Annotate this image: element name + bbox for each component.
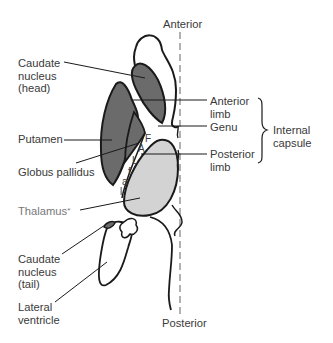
- label-internal-capsule: Internal capsule: [273, 124, 312, 149]
- label-thalamus: Thalamus*: [18, 205, 70, 218]
- fibre-letter-F: F: [145, 133, 151, 144]
- label-posterior: Posterior: [162, 317, 207, 330]
- label-genu: Genu: [210, 121, 237, 134]
- label-putamen: Putamen: [18, 133, 63, 146]
- label-posterior-limb: Posterior limb: [210, 148, 255, 173]
- thalamus-text: Thalamus: [18, 205, 67, 217]
- label-anterior: Anterior: [163, 18, 202, 31]
- fibre-letter-A: A: [138, 143, 145, 154]
- label-caudate-head: Caudate nucleus (head): [18, 57, 60, 95]
- fibre-letter-f: f: [128, 166, 131, 177]
- label-anterior-limb: Anterior limb: [210, 95, 249, 120]
- posterior-outline: [150, 217, 172, 310]
- label-lateral-ventricle: Lateral ventricle: [18, 301, 60, 326]
- label-globus-pallidus: Globus pallidus: [18, 166, 95, 179]
- thalamus-asterisk: *: [67, 206, 70, 215]
- label-caudate-tail: Caudate nucleus (tail): [18, 253, 60, 291]
- fibre-letter-L: L: [132, 155, 138, 166]
- fibre-letter-a: a: [122, 176, 128, 187]
- fibre-letter-l: l: [120, 186, 122, 197]
- internal-capsule-brace: [258, 98, 267, 163]
